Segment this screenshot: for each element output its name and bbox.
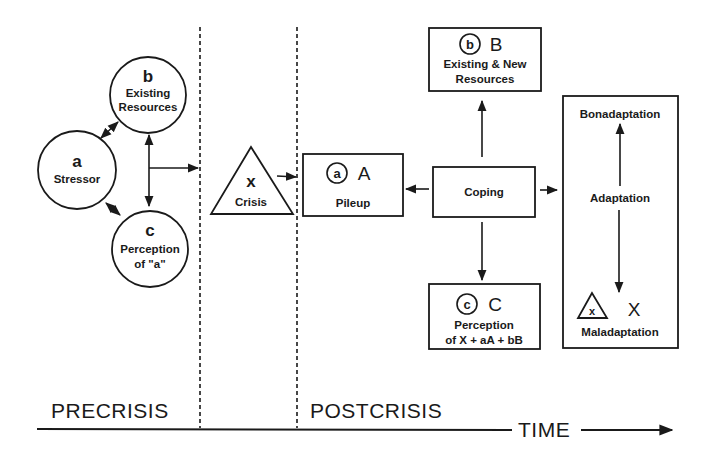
postcrisis-label: POSTCRISIS — [310, 399, 442, 422]
node-letter: b — [143, 67, 153, 86]
stressor-perception-arrow — [106, 203, 120, 215]
svg-text:X: X — [628, 299, 641, 320]
svg-text:of X + aA + bB: of X + aA + bB — [445, 334, 523, 346]
svg-text:a: a — [72, 152, 82, 171]
node-existing-resources: b Existing Resources — [110, 57, 186, 133]
svg-text:Existing & New: Existing & New — [443, 58, 526, 70]
svg-text:Existing: Existing — [126, 87, 171, 99]
crisis-to-pileup-arrow — [277, 176, 296, 177]
svg-text:x: x — [589, 305, 596, 317]
svg-text:b: b — [466, 37, 474, 52]
double-abcx-diagram: b Existing Resources a Stressor c Percep… — [0, 0, 716, 467]
bonadaptation-label: Bonadaptation — [580, 108, 661, 120]
svg-text:Perception: Perception — [454, 319, 513, 331]
node-adaptation: Bonadaptation Adaptation x X Maladaptati… — [563, 96, 678, 348]
node-pileup: a A Pileup — [303, 154, 403, 216]
svg-text:a: a — [333, 166, 341, 181]
node-perception-of-a: c Perception of "a" — [112, 211, 188, 287]
svg-text:Resources: Resources — [456, 73, 515, 85]
node-coping: Coping — [433, 167, 535, 217]
adaptation-label: Adaptation — [590, 192, 650, 204]
svg-text:c: c — [145, 221, 154, 240]
svg-text:c: c — [463, 297, 470, 312]
svg-text:B: B — [490, 34, 503, 55]
timeline-axis — [37, 429, 512, 430]
svg-text:Crisis: Crisis — [235, 196, 267, 208]
maladaptation-label: Maladaptation — [581, 326, 658, 338]
stressor-resources-arrow — [101, 122, 118, 138]
svg-text:of "a": of "a" — [134, 258, 165, 270]
node-perception-xab: c C Perception of X + aA + bB — [429, 284, 540, 349]
svg-text:A: A — [358, 163, 371, 184]
svg-text:Coping: Coping — [464, 186, 504, 198]
node-crisis: x Crisis — [211, 147, 293, 214]
svg-text:Resources: Resources — [119, 101, 178, 113]
node-stressor: a Stressor — [38, 131, 116, 209]
svg-text:Perception: Perception — [120, 243, 179, 255]
time-label: TIME — [518, 418, 570, 441]
svg-text:Pileup: Pileup — [336, 197, 371, 209]
precrisis-label: PRECRISIS — [51, 399, 169, 422]
svg-text:x: x — [246, 172, 256, 191]
node-existing-new-resources: b B Existing & New Resources — [429, 28, 541, 91]
svg-text:C: C — [488, 294, 502, 315]
svg-text:Stressor: Stressor — [54, 173, 101, 185]
